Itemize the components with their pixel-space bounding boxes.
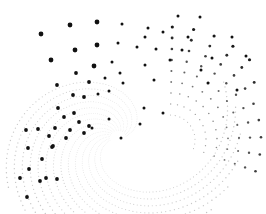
faint-dot	[235, 116, 236, 117]
faint-dot	[56, 146, 57, 147]
fan-dot	[248, 58, 251, 61]
faint-dot	[94, 107, 95, 108]
faint-dot	[55, 113, 56, 114]
faint-dot	[122, 109, 123, 110]
faint-dot	[124, 102, 125, 103]
faint-dot	[136, 191, 137, 192]
faint-dot	[53, 173, 54, 174]
faint-dot	[98, 141, 99, 142]
fan-dot	[203, 152, 204, 153]
faint-dot	[48, 148, 49, 149]
faint-dot	[54, 176, 55, 177]
faint-dot	[47, 111, 48, 112]
faint-dot	[113, 94, 114, 95]
faint-dot	[106, 98, 107, 99]
faint-dot	[191, 203, 192, 204]
faint-dot	[44, 138, 45, 139]
faint-dot	[34, 143, 35, 144]
fan-dot	[170, 114, 171, 115]
faint-dot	[86, 114, 87, 115]
faint-dot	[6, 158, 7, 159]
faint-dot	[102, 135, 103, 136]
faint-dot	[121, 208, 122, 209]
faint-dot	[98, 108, 99, 109]
faint-dot	[17, 142, 18, 143]
faint-dot	[45, 168, 46, 169]
faint-dot	[24, 113, 25, 114]
faint-dot	[76, 204, 77, 205]
faint-dot	[24, 209, 25, 210]
faint-dot	[81, 128, 82, 129]
faint-dot	[99, 136, 100, 137]
faint-dot	[73, 83, 74, 84]
faint-dot	[107, 175, 108, 176]
faint-dot	[184, 190, 185, 191]
faint-dot	[41, 187, 42, 188]
faint-dot	[237, 143, 238, 144]
faint-dot	[22, 173, 23, 174]
faint-dot	[91, 113, 92, 114]
faint-dot	[89, 107, 90, 108]
faint-dot	[77, 116, 78, 117]
faint-dot	[93, 101, 94, 102]
faint-dot	[43, 141, 44, 142]
faint-dot	[230, 156, 231, 157]
faint-dot	[69, 84, 70, 85]
faint-dot	[88, 101, 89, 102]
faint-dot	[63, 134, 64, 135]
faint-dot	[118, 129, 119, 130]
faint-dot	[95, 163, 96, 164]
faint-dot	[85, 177, 86, 178]
fan-dot	[254, 170, 257, 173]
faint-dot	[7, 182, 8, 183]
faint-dot	[83, 172, 84, 173]
fan-dot	[248, 152, 250, 154]
faint-dot	[97, 119, 98, 120]
faint-dot	[110, 135, 111, 136]
spiral-dot	[121, 23, 124, 26]
faint-dot	[126, 202, 127, 203]
faint-dot	[118, 130, 119, 131]
spiral-dot	[111, 61, 114, 64]
faint-dot	[55, 105, 56, 106]
faint-dot	[114, 197, 115, 198]
spiral-dot	[62, 115, 66, 119]
faint-dot	[112, 212, 113, 213]
faint-dot	[82, 115, 83, 116]
faint-dot	[113, 130, 114, 131]
faint-dot	[47, 102, 48, 103]
faint-dot	[180, 200, 181, 201]
faint-dot	[40, 183, 41, 184]
faint-dot	[105, 91, 106, 92]
faint-dot	[148, 212, 149, 213]
faint-dot	[81, 143, 82, 144]
spiral-dot	[199, 16, 202, 19]
faint-dot	[89, 154, 90, 155]
faint-dot	[105, 125, 106, 126]
faint-dot	[132, 121, 133, 122]
faint-dot	[146, 192, 147, 193]
fan-dot	[236, 124, 238, 126]
faint-dot	[116, 213, 117, 214]
faint-dot	[123, 126, 124, 127]
faint-dot	[76, 89, 77, 90]
faint-dot	[45, 171, 46, 172]
faint-dot	[96, 151, 97, 152]
faint-dot	[78, 137, 79, 138]
faint-dot	[111, 86, 112, 87]
faint-dot	[120, 115, 121, 116]
faint-dot	[100, 197, 101, 198]
faint-dot	[70, 208, 71, 209]
faint-dot	[116, 130, 117, 131]
spiral-dot	[82, 131, 86, 135]
faint-dot	[189, 212, 190, 213]
faint-dot	[90, 170, 91, 171]
faint-dot	[61, 171, 62, 172]
faint-dot	[61, 159, 62, 160]
faint-dot	[78, 193, 79, 194]
faint-dot	[63, 108, 64, 109]
faint-dot	[125, 134, 126, 135]
faint-dot	[110, 132, 111, 133]
faint-dot	[102, 148, 103, 149]
faint-dot	[166, 189, 167, 190]
